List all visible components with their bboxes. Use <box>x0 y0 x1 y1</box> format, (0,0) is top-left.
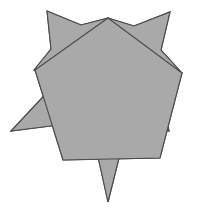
geometric-figure <box>0 0 215 215</box>
figure-canvas <box>0 0 215 215</box>
